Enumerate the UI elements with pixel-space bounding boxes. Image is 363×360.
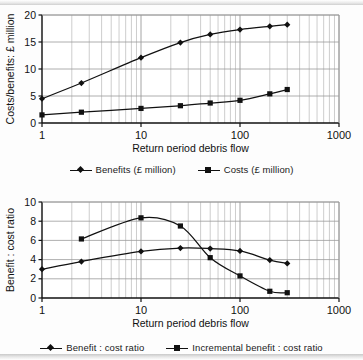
square-data-point	[178, 103, 183, 108]
x-tick-label: 1	[39, 129, 45, 141]
legend-label-incremental-benefit-cost-ratio: Incremental benefit : cost ratio	[192, 343, 322, 353]
square-marker-icon	[198, 166, 220, 175]
x-tick-label: 1000	[327, 304, 351, 316]
square-data-point	[138, 215, 143, 220]
y-tick-label: 0	[30, 292, 36, 304]
x-tick-label: 100	[231, 129, 249, 141]
x-tick-label: 10	[135, 304, 147, 316]
legend-item-benefit-cost-ratio: Benefit : cost ratio	[40, 343, 144, 353]
legend-label-costs: Costs (£ million)	[224, 165, 294, 175]
x-tick-label: 10	[135, 129, 147, 141]
diamond-marker-icon	[40, 344, 62, 353]
square-data-point	[79, 236, 84, 241]
x-tick-label: 100	[231, 304, 249, 316]
top-chart: 051015201101001000Return period debris f…	[0, 2, 363, 180]
x-tick-label: 1000	[327, 129, 351, 141]
legend-item-benefits: Benefits (£ million)	[70, 165, 176, 175]
square-data-point	[138, 106, 143, 111]
square-data-point	[39, 112, 44, 117]
y-tick-label: 15	[24, 36, 36, 48]
square-data-point	[267, 289, 272, 294]
diamond-marker-icon	[70, 166, 92, 175]
top-chart-legend: Benefits (£ million) Costs (£ million)	[0, 162, 363, 178]
bottom-chart: 02468101101001000Return period debris fl…	[0, 182, 363, 358]
legend-label-benefit-cost-ratio: Benefit : cost ratio	[66, 343, 144, 353]
y-tick-label: 5	[30, 90, 36, 102]
square-data-point	[208, 255, 213, 260]
x-axis-title: Return period debris flow	[132, 317, 249, 329]
square-data-point	[178, 223, 183, 228]
top-chart-canvas: 051015201101001000Return period debris f…	[0, 2, 363, 152]
square-data-point	[237, 98, 242, 103]
legend-label-benefits: Benefits (£ million)	[96, 165, 176, 175]
square-data-point	[285, 87, 290, 92]
y-tick-label: 2	[30, 272, 36, 284]
y-tick-label: 0	[30, 117, 36, 129]
y-tick-label: 20	[24, 9, 36, 21]
figure-page: 051015201101001000Return period debris f…	[0, 0, 363, 360]
square-data-point	[267, 91, 272, 96]
y-axis-title: Benefit : cost ratio	[4, 208, 16, 292]
bottom-chart-legend: Benefit : cost ratio Incremental benefit…	[0, 340, 363, 356]
x-axis-title: Return period debris flow	[132, 142, 249, 152]
bottom-chart-canvas: 02468101101001000Return period debris fl…	[0, 182, 363, 332]
y-tick-label: 10	[24, 63, 36, 75]
square-data-point	[237, 273, 242, 278]
y-tick-label: 8	[30, 215, 36, 227]
legend-item-costs: Costs (£ million)	[198, 165, 294, 175]
y-tick-label: 6	[30, 234, 36, 246]
square-marker-icon	[166, 344, 188, 353]
x-tick-label: 1	[39, 304, 45, 316]
square-data-point	[208, 100, 213, 105]
square-data-point	[79, 110, 84, 115]
y-tick-label: 4	[30, 253, 36, 265]
legend-item-incremental-benefit-cost-ratio: Incremental benefit : cost ratio	[166, 343, 322, 353]
square-data-point	[285, 290, 290, 295]
y-tick-label: 10	[24, 196, 36, 208]
y-axis-title: Costs/benefits: £ million	[4, 13, 16, 124]
